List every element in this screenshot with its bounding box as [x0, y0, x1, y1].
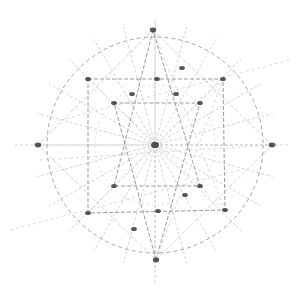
radial-ray — [37, 145, 155, 177]
radial-ray — [94, 39, 155, 145]
vertex-node — [150, 28, 156, 33]
vertex-node — [173, 92, 179, 96]
radial-ray — [155, 84, 261, 145]
star-construction-svg — [0, 0, 300, 288]
vertex-node — [129, 92, 135, 96]
vertex-node — [35, 143, 41, 148]
vertex-node — [182, 193, 188, 197]
vertex-node — [220, 77, 226, 81]
vertex-node — [155, 209, 161, 213]
radial-ray — [49, 84, 155, 145]
center-node — [151, 142, 159, 148]
radial-ray — [155, 145, 216, 251]
vertex-node — [111, 184, 117, 188]
radial-ray — [123, 145, 155, 263]
vertex-node — [153, 258, 159, 263]
radial-ray — [155, 113, 273, 145]
vertex-node — [85, 211, 91, 215]
vertex-node — [222, 208, 228, 212]
vertex-node — [154, 77, 160, 81]
construction-line — [156, 79, 223, 260]
construction-line — [10, 170, 240, 230]
vertex-node — [197, 184, 203, 188]
radial-ray — [155, 145, 261, 206]
vertex-node — [197, 101, 203, 105]
radial-ray — [37, 113, 155, 145]
vertex-node — [179, 66, 185, 70]
radial-ray — [49, 145, 155, 206]
vertex-node — [85, 77, 91, 81]
radial-ray — [69, 145, 155, 231]
construction-line — [153, 30, 225, 210]
diagram-canvas: Geometric star construction sketch — [0, 0, 300, 288]
vertex-node — [269, 143, 275, 148]
radial-ray — [155, 145, 273, 177]
triangle-up-outline — [114, 30, 200, 186]
radial-ray — [155, 39, 216, 145]
vertex-node — [111, 101, 117, 105]
vertex-node — [131, 227, 137, 231]
construction-line — [60, 60, 290, 120]
